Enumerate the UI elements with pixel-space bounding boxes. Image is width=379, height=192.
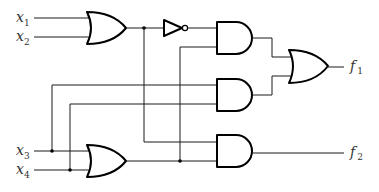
input-label-x4: x4 (16, 161, 30, 180)
junction-x3 (50, 149, 54, 153)
junction-x4 (68, 168, 72, 172)
input-label-x3: x3 (16, 142, 30, 161)
logic-circuit-diagram: x1 x2 x3 x4 f1 f2 (0, 0, 379, 192)
wire-and2-to-or3 (252, 76, 292, 95)
not-gate (164, 20, 182, 36)
input-label-x2: x2 (16, 28, 30, 47)
and-gate-2 (217, 79, 252, 111)
wire-and1-to-or3 (252, 38, 292, 57)
wire-x3-to-and2 (52, 85, 218, 151)
or-gate-1 (87, 12, 126, 44)
or-gate-3 (289, 50, 328, 83)
and-gate-1 (217, 22, 252, 54)
not-bubble-icon (182, 25, 187, 30)
output-label-f1: f1 (349, 58, 363, 76)
output-label-f2: f2 (349, 144, 363, 162)
and-gate-3 (217, 135, 252, 167)
or-gate-2 (87, 145, 126, 177)
input-label-x1: x1 (16, 9, 30, 28)
